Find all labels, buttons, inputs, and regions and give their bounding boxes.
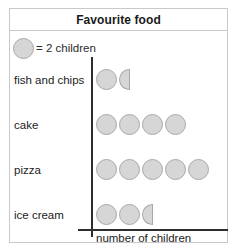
pictogram-rows: fish and chips cake [10,57,227,237]
row-symbols-ice-cream [96,204,153,225]
circle-icon [96,204,117,225]
half-circle-icon [142,204,153,225]
circle-icon [96,69,117,90]
circle-icon [119,114,140,135]
circle-icon [165,159,186,180]
circle-icon [96,159,117,180]
x-axis-label: number of children [96,232,191,244]
chart-frame: Favourite food = 2 children fish and chi… [9,8,228,243]
row-label-cake: cake [14,119,88,131]
row-label-fish-and-chips: fish and chips [14,74,88,86]
half-circle-icon [119,69,130,90]
row-label-ice-cream: ice cream [14,209,88,221]
table-row: pizza [10,147,227,192]
row-symbols-fish-and-chips [96,69,130,90]
circle-icon [119,159,140,180]
chart-title-bar: Favourite food [10,9,227,31]
plot-area: fish and chips cake [10,31,227,242]
row-symbols-pizza [96,159,209,180]
circle-icon [119,204,140,225]
circle-icon [188,159,209,180]
circle-icon [142,159,163,180]
table-row: ice cream [10,192,227,237]
pictogram-chart-page: Favourite food = 2 children fish and chi… [0,0,238,252]
page-title: Favourite food [76,13,161,27]
circle-icon [96,114,117,135]
table-row: fish and chips [10,57,227,102]
row-label-pizza: pizza [14,164,88,176]
circle-icon [142,114,163,135]
row-symbols-cake [96,114,186,135]
table-row: cake [10,102,227,147]
circle-icon [165,114,186,135]
